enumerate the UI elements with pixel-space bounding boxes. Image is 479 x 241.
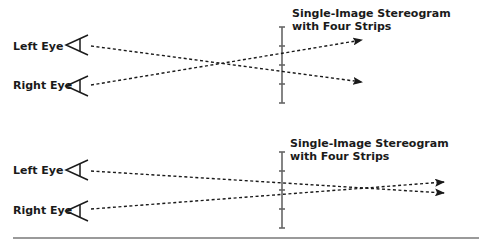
stereogram-strip-bar (279, 152, 285, 228)
left-eye-icon (66, 160, 88, 180)
right-eye-ray (91, 182, 444, 209)
left-eye-label: Left Eye (13, 164, 64, 177)
stereogram-title-line2: with Four Strips (292, 20, 392, 33)
left-eye-icon (66, 35, 88, 55)
right-eye-label: Right Eye (13, 204, 72, 217)
left-eye-ray (91, 46, 362, 82)
right-eye-label: Right Eye (13, 79, 72, 92)
bottom-panel: Left Eye Right Eye Single-Image Stereogr… (13, 137, 449, 228)
stereogram-title-line2: with Four Strips (290, 150, 390, 163)
left-eye-ray (91, 171, 444, 193)
stereogram-title-line1: Single-Image Stereogram (292, 7, 451, 20)
stereogram-diagram: Left Eye Right Eye Single-Image Stereogr… (0, 0, 479, 241)
bottom-divider (13, 237, 479, 239)
top-panel: Left Eye Right Eye Single-Image Stereogr… (13, 7, 451, 103)
stereogram-strip-bar (279, 27, 285, 103)
stereogram-title-line1: Single-Image Stereogram (290, 137, 449, 150)
right-eye-ray (91, 40, 362, 85)
left-eye-label: Left Eye (13, 40, 64, 53)
